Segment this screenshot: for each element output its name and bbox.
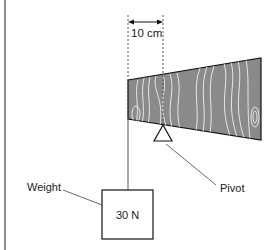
weight-leader-line <box>63 190 102 205</box>
distance-arrow <box>128 20 163 25</box>
pivot-leader-line <box>166 144 216 185</box>
wooden-plank <box>128 58 261 140</box>
distance-label: 10 cm <box>131 28 162 40</box>
weight-label: Weight <box>27 182 61 193</box>
pivot-label: Pivot <box>220 183 244 194</box>
weight-value: 30 N <box>116 210 139 221</box>
pivot-triangle <box>154 125 172 141</box>
